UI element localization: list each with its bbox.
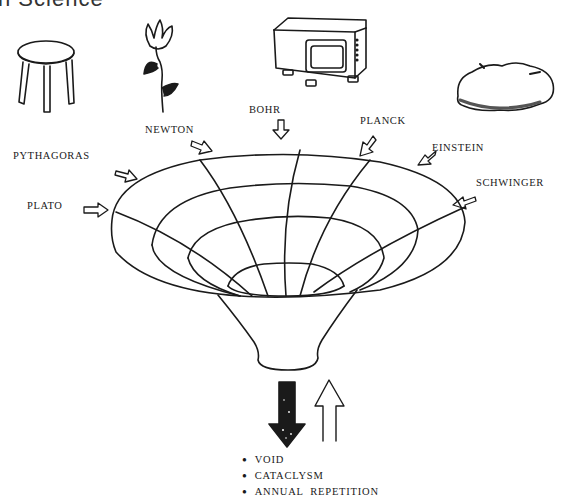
- outcomes-list: VOID CATACLYSM ANNUAL REPETITION: [242, 452, 379, 500]
- label-planck: PLANCK: [360, 115, 406, 126]
- funnel-neck: [218, 290, 357, 370]
- label-pythagoras: PYTHAGORAS: [13, 150, 90, 161]
- flower-icon: [144, 20, 178, 112]
- television-icon: [274, 18, 366, 86]
- label-bohr: BOHR: [249, 104, 281, 115]
- einstein-arrow-icon: [418, 151, 436, 165]
- down-arrow-icon: [269, 382, 305, 447]
- outcome-cataclysm: CATACLYSM: [242, 468, 379, 484]
- plato-arrow-icon: [84, 203, 108, 217]
- outcome-annual-repetition: ANNUAL REPETITION: [242, 484, 379, 500]
- rock-icon: [458, 63, 554, 111]
- label-einstein: EINSTEIN: [432, 142, 484, 153]
- newton-arrow-icon: [191, 141, 212, 154]
- diagram-page: n Science: [0, 0, 567, 504]
- up-arrow-icon: [315, 380, 344, 441]
- funnel-diagram: [0, 0, 567, 504]
- bohr-arrow-icon: [273, 120, 289, 139]
- label-newton: NEWTON: [145, 124, 194, 135]
- planck-arrow-icon: [360, 136, 376, 156]
- outcome-void: VOID: [242, 452, 379, 468]
- label-schwinger: SCHWINGER: [476, 177, 544, 188]
- pythagoras-arrow-icon: [115, 170, 137, 182]
- label-plato: PLATO: [27, 200, 62, 211]
- stool-icon: [18, 41, 74, 112]
- funnel-bowl: [112, 150, 466, 297]
